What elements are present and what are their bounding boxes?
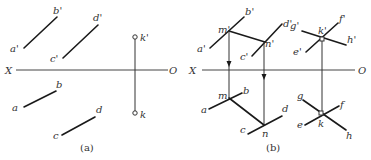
label-n: n — [262, 128, 268, 139]
label-m-prime: m' — [218, 24, 230, 35]
line-a-prime-b-prime — [24, 17, 57, 48]
figure-b: X O a' b' c' d' m' n' g' f' k' h' e' a b… — [188, 6, 366, 153]
label-a: a — [201, 104, 207, 115]
label-f: f — [339, 99, 346, 110]
label-k-prime: k' — [318, 25, 327, 36]
label-e-prime: e' — [293, 46, 302, 57]
label-b: b — [56, 79, 62, 90]
label-c-prime: c' — [50, 53, 58, 64]
point-k-prime — [133, 35, 137, 39]
label-k-prime: k' — [140, 32, 149, 43]
line-c-prime-d-prime — [63, 25, 98, 58]
label-m: m — [218, 90, 227, 101]
label-f-prime: f' — [338, 13, 345, 24]
label-d-prime: d' — [93, 12, 102, 23]
caption-b: (b) — [266, 142, 280, 153]
line-c-d — [62, 117, 95, 135]
line-m-n — [229, 98, 264, 125]
point-k — [133, 111, 137, 115]
label-d: d — [282, 103, 288, 114]
label-c: c — [240, 124, 246, 135]
projection-diagram: X O a' b' c' d' k' k a b c d (a) X O a' … — [0, 0, 371, 160]
axis-label-o: O — [169, 65, 177, 76]
label-d: d — [96, 104, 102, 115]
label-n-prime: n' — [265, 38, 274, 49]
label-h: h — [346, 130, 352, 141]
label-a: a — [12, 102, 18, 113]
point-k-prime — [320, 37, 324, 41]
point-k — [319, 111, 323, 115]
label-b-prime: b' — [53, 5, 62, 16]
line-m-prime-n-prime — [229, 31, 265, 42]
arrow-down-icon — [262, 74, 267, 80]
label-a-prime: a' — [10, 43, 19, 54]
line-a-b — [24, 91, 56, 107]
label-k: k — [140, 109, 146, 120]
arrow-down-icon — [227, 61, 232, 67]
label-g-prime: g' — [290, 20, 299, 31]
axis-label-x: X — [4, 65, 13, 76]
label-k: k — [318, 118, 324, 129]
label-c: c — [53, 130, 59, 141]
figure-a: X O a' b' c' d' k' k a b c d (a) — [4, 5, 177, 153]
label-b-prime: b' — [245, 6, 254, 17]
label-g: g — [297, 90, 303, 101]
label-e: e — [297, 119, 303, 130]
axis-label-x: X — [188, 65, 197, 76]
label-a-prime: a' — [197, 43, 206, 54]
caption-a: (a) — [80, 142, 94, 153]
label-h-prime: h' — [347, 34, 356, 45]
axis-label-o: O — [358, 65, 366, 76]
label-c-prime: c' — [240, 51, 248, 62]
label-b: b — [243, 85, 249, 96]
